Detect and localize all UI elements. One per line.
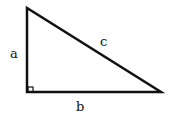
right-triangle-figure: a c b	[0, 0, 177, 114]
diagram-canvas: a c b	[0, 0, 177, 114]
side-a-label: a	[10, 46, 18, 61]
triangle-outline	[27, 8, 161, 92]
side-c-label: c	[100, 34, 107, 49]
side-b-label: b	[76, 99, 84, 114]
